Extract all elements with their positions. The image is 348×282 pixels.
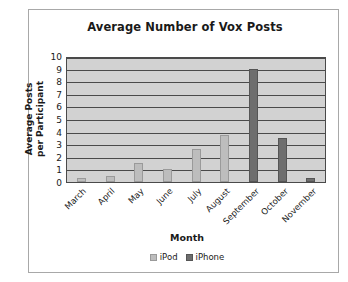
chart-figure: Average Number of Vox Posts Average Post… xyxy=(0,0,348,282)
bar-group xyxy=(124,58,153,182)
plot-area xyxy=(66,57,326,183)
y-axis-tick-label: 9 xyxy=(56,65,62,75)
bar-group xyxy=(296,58,325,182)
bar-ipod-april xyxy=(106,176,115,182)
y-axis-tick-label: 2 xyxy=(56,153,62,163)
y-axis-title-line-1: Average Posts xyxy=(24,83,34,156)
legend-entry-ipod: iPod xyxy=(150,252,178,262)
legend-label-ipod: iPod xyxy=(160,252,178,262)
bar-group xyxy=(153,58,182,182)
y-axis-title: Average Posts per Participant xyxy=(22,55,46,183)
bar-series-container xyxy=(67,58,325,182)
legend-swatch-ipod xyxy=(150,254,157,261)
y-axis-tick-label: 4 xyxy=(56,128,62,138)
x-axis-title: Month xyxy=(48,232,326,243)
y-axis-tick-label: 3 xyxy=(56,140,62,150)
bar-group xyxy=(268,58,297,182)
y-axis-tick-label: 5 xyxy=(56,115,62,125)
bar-group xyxy=(96,58,125,182)
legend-swatch-iphone xyxy=(186,254,193,261)
y-axis-ticks: 109876543210 xyxy=(48,57,64,183)
bar-ipod-august xyxy=(220,135,229,182)
y-axis-tick-label: 0 xyxy=(56,178,62,188)
x-axis-tick-cell: November xyxy=(297,184,326,230)
bar-ipod-july xyxy=(192,149,201,182)
legend-label-iphone: iPhone xyxy=(196,252,225,262)
bar-iphone-september xyxy=(249,69,258,182)
bar-group xyxy=(210,58,239,182)
y-axis-tick-label: 10 xyxy=(51,52,62,62)
x-axis-tick-label: March xyxy=(62,186,87,211)
y-axis-title-text: Average Posts per Participant xyxy=(24,81,45,157)
x-axis-tick-label: June xyxy=(154,186,174,206)
x-axis-tick-cell: June xyxy=(153,184,182,230)
y-axis-tick-label: 6 xyxy=(56,102,62,112)
bar-group xyxy=(239,58,268,182)
x-axis-tick-cell: March xyxy=(66,184,95,230)
bar-group xyxy=(67,58,96,182)
x-axis-tick-label: April xyxy=(96,186,117,207)
x-axis-tick-cell: May xyxy=(124,184,153,230)
bar-ipod-may xyxy=(134,163,143,182)
bar-ipod-march xyxy=(77,178,86,182)
x-axis-tick-labels: MarchAprilMayJuneJulyAugustSeptemberOcto… xyxy=(66,184,326,230)
bar-group xyxy=(182,58,211,182)
x-axis-tick-label: May xyxy=(126,186,146,206)
chart-legend: iPodiPhone xyxy=(48,252,326,262)
plot-block: 109876543210 xyxy=(48,57,326,183)
x-axis-tick-cell: April xyxy=(95,184,124,230)
y-axis-tick-label: 1 xyxy=(56,165,62,175)
chart-title: Average Number of Vox Posts xyxy=(40,20,330,34)
y-axis-tick-label: 7 xyxy=(56,90,62,100)
bar-iphone-november xyxy=(306,178,315,182)
legend-entry-iphone: iPhone xyxy=(186,252,225,262)
bar-ipod-june xyxy=(163,169,172,182)
y-axis-tick-label: 8 xyxy=(56,77,62,87)
bar-iphone-october xyxy=(278,138,287,182)
y-axis-title-line-2: per Participant xyxy=(34,81,44,157)
x-axis-tick-label: July xyxy=(185,186,203,204)
